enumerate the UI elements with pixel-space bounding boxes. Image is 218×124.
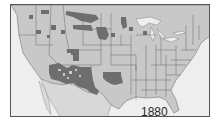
reservation-nevada bbox=[47, 35, 50, 38]
reservation-idaho bbox=[51, 25, 56, 30]
land-north bbox=[11, 5, 210, 113]
reservation-wisconsin bbox=[143, 31, 147, 35]
map-frame: 1880 bbox=[10, 4, 210, 117]
reservation-montana-west bbox=[29, 15, 33, 19]
reservation-wyoming bbox=[61, 30, 65, 34]
us-map bbox=[11, 5, 210, 117]
reservation-oregon bbox=[36, 30, 41, 34]
reservation-colorado-small bbox=[67, 49, 71, 53]
year-label: 1880 bbox=[141, 105, 168, 117]
reservation-washington bbox=[41, 10, 49, 14]
reservation-nebraska bbox=[111, 33, 115, 37]
reservation-minnesota bbox=[129, 27, 133, 31]
